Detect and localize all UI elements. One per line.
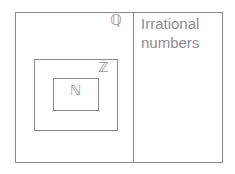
rationals-label: ℚ	[110, 13, 122, 28]
rational-irrational-divider	[133, 12, 134, 163]
naturals-label: ℕ	[70, 83, 81, 97]
irrational-numbers-label: Irrational numbers	[141, 14, 225, 52]
diagram-canvas: ℚ Irrational numbers ℤ ℕ	[0, 0, 235, 174]
integers-label: ℤ	[98, 60, 108, 74]
